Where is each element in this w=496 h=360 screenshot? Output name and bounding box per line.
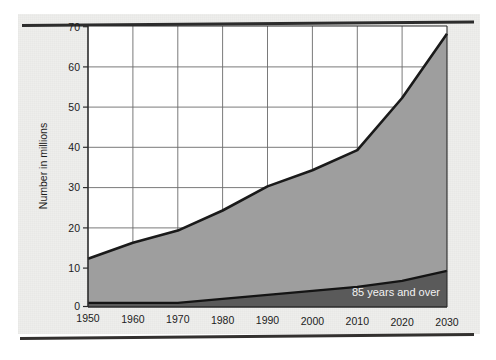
area-chart: 85 years and over 70 60 50 40 30 20 xyxy=(0,0,496,360)
y-tick-label: 20 xyxy=(68,222,80,234)
y-axis-title: Number in millions xyxy=(37,123,49,209)
x-tick-label: 2020 xyxy=(390,316,414,328)
screenshot-root: 85 years and over 70 60 50 40 30 20 xyxy=(0,0,496,360)
y-tick-label: 40 xyxy=(68,141,80,153)
x-tick-label: 2030 xyxy=(435,316,459,328)
y-tick-label: 50 xyxy=(68,101,80,113)
x-tick-label: 1960 xyxy=(121,313,145,325)
x-tick-label: 1990 xyxy=(256,314,280,326)
x-tick-label: 1970 xyxy=(166,313,190,325)
y-tick-label: 70 xyxy=(68,21,80,33)
x-tick-label: 2000 xyxy=(301,315,325,327)
x-tick-label: 1980 xyxy=(211,314,235,326)
y-tick-label: 10 xyxy=(68,262,80,274)
y-tick-label: 60 xyxy=(68,61,80,73)
series-label-85-plus: 85 years and over xyxy=(352,286,440,298)
y-tick-labels: 70 60 50 40 30 20 10 0 xyxy=(68,21,80,313)
y-tick-label: 0 xyxy=(74,300,80,312)
x-tick-labels: 1950 1960 1970 1980 1990 2000 2010 2020 … xyxy=(76,312,459,328)
y-tick-label: 30 xyxy=(68,181,80,193)
x-tick-label: 1950 xyxy=(76,312,100,324)
x-tick-label: 2010 xyxy=(346,315,370,327)
